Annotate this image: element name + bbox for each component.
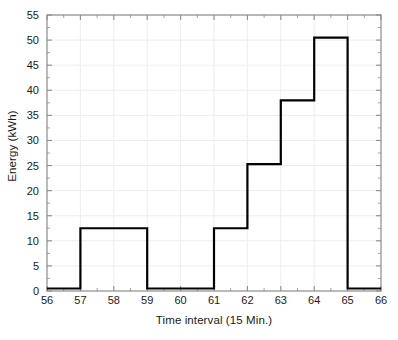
chart-figure: Energy (kWh) 0510152025303540455055 5657… [0,0,398,340]
x-axis-label: Time interval (15 Min.) [47,314,381,326]
plot-area [0,0,398,340]
